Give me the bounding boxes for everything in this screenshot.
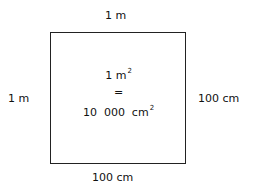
area-m2-exponent: 2 (127, 67, 131, 75)
top-side-label: 1 m (105, 9, 126, 22)
area-cm2-value: 10 000 cm (83, 106, 149, 119)
left-side-label: 1 m (8, 92, 29, 105)
area-cm2: 10 000 cm2 (50, 104, 187, 119)
right-side-label: 100 cm (198, 92, 239, 105)
area-m2: 1 m2 (50, 67, 187, 82)
equals-sign: = (50, 86, 187, 99)
area-cm2-exponent: 2 (150, 104, 154, 112)
bottom-side-label: 100 cm (92, 171, 133, 184)
area-m2-value: 1 m (105, 69, 126, 82)
